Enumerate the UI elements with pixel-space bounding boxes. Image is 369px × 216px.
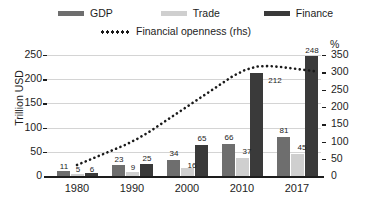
- right-tickmark-250: [322, 90, 326, 91]
- right-tickmark-150: [322, 124, 326, 125]
- financial-globalisation-chart: GDP Trade Finance Financial openness (rh…: [0, 0, 369, 216]
- right-tick-50: 50: [331, 153, 359, 164]
- chart-legend-line: Financial openness (rhs): [100, 26, 360, 37]
- right-tick-100: 100: [331, 136, 359, 147]
- x-axis-line: [44, 176, 324, 178]
- bar-value-gdp-2000: 34: [163, 149, 185, 158]
- bar-gdp-2017[interactable]: [277, 137, 290, 176]
- gridline-250: [47, 55, 321, 56]
- bar-finance-2017[interactable]: [305, 56, 318, 176]
- bar-gdp-2000[interactable]: [167, 160, 180, 177]
- legend-label-finance: Finance: [296, 8, 333, 19]
- gridline-150: [47, 103, 321, 104]
- left-tickmark-100: [43, 128, 47, 129]
- left-tick-0: 0: [14, 170, 42, 181]
- bar-value-finance-1990: 25: [136, 154, 158, 163]
- x-tick-2000: 2000: [159, 182, 215, 194]
- right-tickmark-50: [322, 159, 326, 160]
- legend-swatch-dotted-line: [100, 30, 130, 34]
- right-tick-350: 350: [331, 49, 359, 60]
- legend-swatch-trade: [161, 11, 187, 16]
- right-tickmark-300: [322, 72, 326, 73]
- right-tickmark-350: [322, 55, 326, 56]
- left-tickmark-200: [43, 79, 47, 80]
- right-tick-150: 150: [331, 118, 359, 129]
- x-tick-2010: 2010: [214, 182, 270, 194]
- bar-value-gdp-2010: 66: [218, 133, 240, 142]
- left-tick-150: 150: [14, 97, 42, 108]
- legend-swatch-gdp: [58, 11, 84, 16]
- left-tick-200: 200: [14, 73, 42, 84]
- legend-item-gdp[interactable]: GDP: [58, 8, 113, 19]
- right-tick-0: 0: [331, 170, 359, 181]
- legend-label-financial-openness: Financial openness (rhs): [136, 26, 251, 37]
- plot-area: 11 5 6 23 9 25 34 16 65 66 37 212 81 45 …: [47, 55, 321, 176]
- bar-finance-2010[interactable]: [250, 73, 263, 176]
- x-tick-1980: 1980: [49, 182, 105, 194]
- right-tick-200: 200: [331, 101, 359, 112]
- right-tick-300: 300: [331, 66, 359, 77]
- bar-value-finance-2010: 212: [264, 76, 286, 85]
- bar-trade-2017[interactable]: [291, 154, 304, 176]
- x-tick-1990: 1990: [104, 182, 160, 194]
- right-tick-250: 250: [331, 84, 359, 95]
- legend-label-trade: Trade: [193, 8, 220, 19]
- bar-value-trade-2017: 45: [291, 143, 313, 152]
- bar-value-finance-2017: 248: [301, 46, 323, 55]
- bar-value-trade-2000: 16: [181, 161, 203, 170]
- bar-value-finance-2000: 65: [191, 134, 213, 143]
- right-tickmark-100: [322, 142, 326, 143]
- bar-trade-2010[interactable]: [236, 158, 249, 176]
- left-tickmark-250: [43, 55, 47, 56]
- left-tickmark-150: [43, 103, 47, 104]
- right-tickmark-200: [322, 107, 326, 108]
- left-tick-50: 50: [14, 146, 42, 157]
- chart-legend-bars: GDP Trade Finance: [58, 8, 358, 19]
- bar-value-finance-1980: 6: [81, 165, 103, 174]
- bar-value-trade-2010: 37: [236, 147, 258, 156]
- x-tick-2017: 2017: [269, 182, 325, 194]
- left-tickmark-50: [43, 152, 47, 153]
- legend-swatch-finance: [264, 11, 290, 16]
- legend-label-gdp: GDP: [90, 8, 113, 19]
- legend-item-trade[interactable]: Trade: [161, 8, 220, 19]
- legend-item-financial-openness[interactable]: Financial openness (rhs): [100, 26, 251, 37]
- bar-value-trade-1990: 9: [122, 163, 144, 172]
- bar-gdp-2010[interactable]: [222, 144, 235, 176]
- bar-value-gdp-2017: 81: [273, 126, 295, 135]
- left-tick-250: 250: [14, 49, 42, 60]
- left-tick-100: 100: [14, 122, 42, 133]
- legend-item-finance[interactable]: Finance: [264, 8, 333, 19]
